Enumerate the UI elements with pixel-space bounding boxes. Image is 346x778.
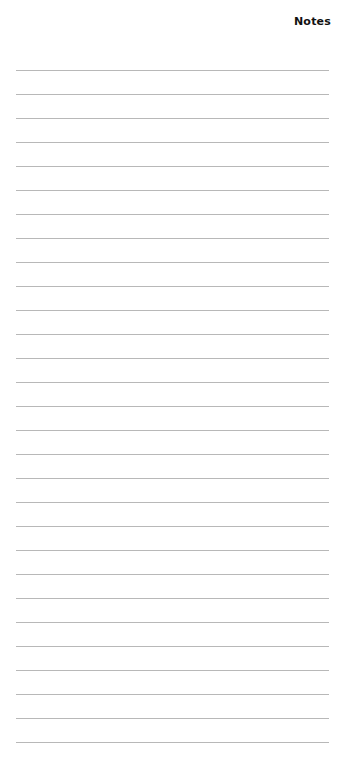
ruled-line <box>16 550 329 574</box>
ruled-line <box>16 454 329 478</box>
ruled-line <box>16 70 329 94</box>
ruled-line <box>16 598 329 622</box>
ruled-line <box>16 310 329 334</box>
ruled-line <box>16 742 329 766</box>
ruled-line <box>16 262 329 286</box>
ruled-line <box>16 382 329 406</box>
ruled-line <box>16 670 329 694</box>
ruled-line <box>16 238 329 262</box>
ruled-line <box>16 478 329 502</box>
page-title: Notes <box>294 15 331 28</box>
ruled-line <box>16 334 329 358</box>
ruled-line <box>16 94 329 118</box>
ruled-line <box>16 214 329 238</box>
ruled-line <box>16 694 329 718</box>
ruled-line <box>16 358 329 382</box>
ruled-line <box>16 190 329 214</box>
ruled-line <box>16 142 329 166</box>
ruled-line <box>16 166 329 190</box>
ruled-lines <box>16 70 329 766</box>
ruled-line <box>16 718 329 742</box>
ruled-line <box>16 574 329 598</box>
ruled-line <box>16 406 329 430</box>
ruled-line <box>16 622 329 646</box>
ruled-line <box>16 286 329 310</box>
ruled-line <box>16 502 329 526</box>
ruled-line <box>16 526 329 550</box>
ruled-line <box>16 118 329 142</box>
ruled-line <box>16 430 329 454</box>
ruled-line <box>16 646 329 670</box>
